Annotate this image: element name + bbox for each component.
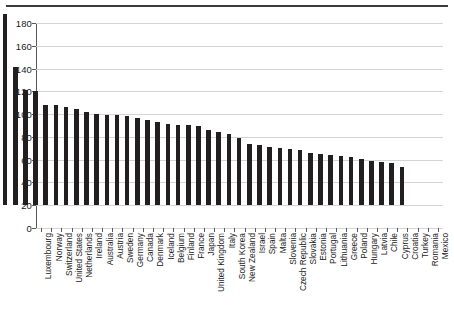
bar [288,149,293,205]
x-axis-tick [377,228,378,232]
x-axis-tick [41,228,42,232]
x-axis-tick-label: Spain [268,233,276,254]
bar [206,130,211,205]
x-axis-tick-label: Luxembourg [44,233,52,279]
x-axis-tick-label: Canada [146,233,154,262]
x-axis-tick [61,228,62,232]
x-axis-tick-label: France [197,233,205,259]
x-axis-tick [316,228,317,232]
x-axis-tick [184,228,185,232]
bar [318,154,323,205]
x-axis-tick-label: Malta [279,233,287,253]
bar [3,14,8,205]
bar [54,105,59,205]
x-axis-tick-label: Mexico [441,233,449,259]
bar [13,67,18,205]
x-axis-tick [306,228,307,232]
x-axis-tick-label: Croatia [411,233,419,260]
x-axis-tick-label: Estonia [319,233,327,261]
x-axis-tick-label: Portugal [329,233,337,264]
x-axis-tick-label: Slovenia [289,233,297,265]
bar [298,150,303,205]
x-axis-tick [438,228,439,232]
x-axis-tick [153,228,154,232]
x-axis-tick [163,228,164,232]
x-axis-tick [234,228,235,232]
bar [105,115,110,205]
bar [125,116,130,205]
bar [359,159,364,205]
x-axis-tick-label: Lithuania [340,233,348,267]
gridline [36,205,443,206]
x-axis-tick-label: Sweden [126,233,134,263]
x-axis-tick-label: Romania [431,233,439,266]
x-axis-tick-label: New Zealand [248,233,256,282]
x-axis-tick-label: United Kingdom [217,233,225,292]
x-axis-tick [245,228,246,232]
x-axis-labels: LuxembourgNorwaySwitzerlandUnited States… [36,233,443,321]
bars-layer [0,0,407,205]
bar [216,132,221,205]
x-axis-tick [173,228,174,232]
x-axis-tick [418,228,419,232]
x-axis-tick-label: Slovakia [309,233,317,264]
bar [135,118,140,205]
x-axis-tick [387,228,388,232]
bar [349,157,354,205]
x-axis-tick [346,228,347,232]
bar [186,125,191,205]
x-axis-tick-label: Norway [55,233,63,261]
x-axis-tick [295,228,296,232]
x-axis-tick [336,228,337,232]
x-axis-tick-label: Netherlands [85,233,93,278]
x-axis-tick-label: South Korea [238,233,246,279]
bar [84,112,89,205]
x-axis-tick-label: Switzerland [65,233,73,276]
bar [328,155,333,205]
x-axis-tick [194,228,195,232]
x-axis-tick-label: Turkey [421,233,429,258]
x-axis-tick [255,228,256,232]
x-axis-tick [92,228,93,232]
x-axis-tick [224,228,225,232]
bar [43,105,48,205]
x-axis-tick [102,228,103,232]
x-axis-tick [51,228,52,232]
x-axis-tick-label: United States [75,233,83,283]
x-axis-tick [326,228,327,232]
x-axis-tick-label: Iceland [167,233,175,260]
bar [115,115,120,205]
x-axis-tick-label: Greece [350,233,358,260]
bar [257,145,262,205]
x-axis-tick [397,228,398,232]
x-axis-tick-label: Germany [136,233,144,267]
bar [379,162,384,205]
bar [278,148,283,205]
x-axis-tick-label: Poland [360,233,368,259]
x-axis-tick-label: Ireland [95,233,103,258]
bar [74,109,79,205]
bar [237,138,242,205]
x-axis-tick [112,228,113,232]
x-axis-tick [133,228,134,232]
bar [23,90,28,205]
bar [339,156,344,205]
bar [145,120,150,205]
x-axis-tick [357,228,358,232]
x-axis-tick [265,228,266,232]
bar [196,126,201,205]
bar [389,163,394,205]
x-axis-tick [204,228,205,232]
x-axis-tick-label: Denmark [156,233,164,267]
x-axis-tick [275,228,276,232]
x-axis-tick-label: Chile [390,233,398,252]
bar [176,125,181,205]
x-axis-tick [143,228,144,232]
y-axis-tick [32,205,36,206]
x-axis-tick-label: Israel [258,233,266,253]
x-axis-tick [428,228,429,232]
x-axis-ticks [36,228,443,232]
x-axis-tick [407,228,408,232]
x-axis-tick-label: Australia [106,233,114,265]
x-axis-tick [367,228,368,232]
